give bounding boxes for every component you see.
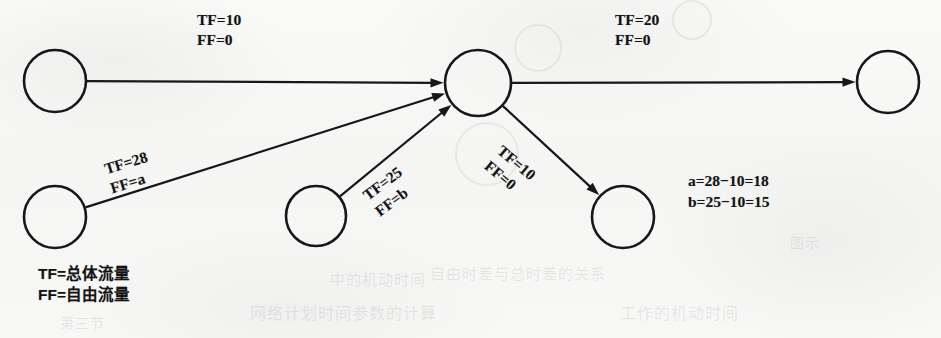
notation-legend: TF=总体流量 FF=自由流量: [38, 263, 130, 305]
edge-hub-to-far-right: [512, 78, 856, 87]
node-source-bottom-left: [24, 186, 86, 248]
equation-a: a=28−10=18: [688, 170, 770, 191]
scanned-diagram-page: 中的机动时间自由时差与总时差的关系网络计划时间参数的计算工作的机动时间第三节图示…: [0, 0, 941, 338]
edge-top-left-to-hub: [87, 78, 444, 87]
node-source-bottom-mid: [286, 186, 346, 246]
label-total-float: TF=10: [197, 10, 241, 30]
label-free-float: FF=0: [615, 30, 659, 50]
legend-line-total-float: TF=总体流量: [38, 263, 130, 284]
equation-b: b=25−10=15: [688, 191, 770, 212]
node-source-top-left: [24, 50, 86, 112]
nodes-group: [24, 50, 919, 248]
label-edge-top-left-to-hub: TF=10FF=0: [197, 10, 241, 50]
free-float-computations: a=28−10=18 b=25−10=15: [688, 170, 770, 213]
node-hub-center: [445, 50, 511, 116]
label-free-float: FF=0: [197, 30, 241, 50]
label-total-float: TF=20: [615, 10, 659, 30]
node-sink-bottom-right: [592, 186, 654, 248]
node-sink-far-right: [857, 51, 919, 113]
label-edge-hub-to-far-right: TF=20FF=0: [615, 10, 659, 50]
legend-line-free-float: FF=自由流量: [38, 284, 130, 305]
